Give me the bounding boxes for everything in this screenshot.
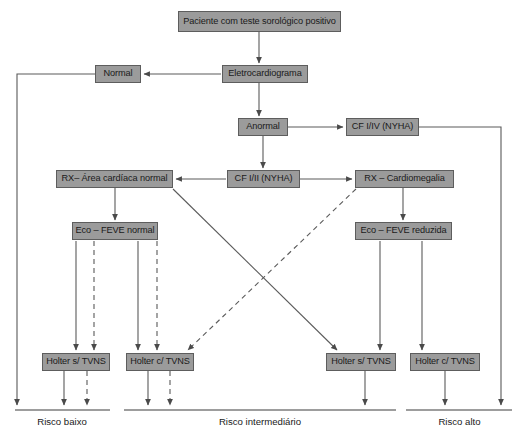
node-rx-area-cardiaca-normal[interactable]: RX– Área cardíaca normal bbox=[56, 170, 173, 188]
node-label: RX– Área cardíaca normal bbox=[62, 174, 168, 183]
edge-rx-cardiomegalia-to-holter-c-baixo bbox=[188, 189, 356, 350]
node-eco-feve-normal[interactable]: Eco – FEVE normal bbox=[72, 222, 158, 240]
node-label: Holter s/ TVNS bbox=[46, 357, 106, 366]
risk-label-risco-alto: Risco alto bbox=[412, 416, 507, 427]
risk-label-risco-baixo: Risco baixo bbox=[12, 416, 112, 427]
node-cf-3-4-nyha[interactable]: CF I/IV (NYHA) bbox=[346, 118, 419, 136]
node-cf-1-2-nyha[interactable]: CF I/II (NYHA) bbox=[227, 170, 300, 188]
node-anormal[interactable]: Anormal bbox=[238, 118, 288, 136]
node-eco-feve-reduzida[interactable]: Eco – FEVE reduzida bbox=[355, 222, 452, 240]
node-holter-sem-tvns-risco-baixo[interactable]: Holter s/ TVNS bbox=[42, 353, 110, 371]
node-label: Holter s/ TVNS bbox=[331, 357, 391, 366]
risk-label-text: Risco baixo bbox=[37, 416, 87, 427]
node-label: Paciente com teste sorológico positivo bbox=[183, 17, 335, 26]
node-label: Holter c/ TVNS bbox=[130, 357, 190, 366]
node-rx-cardiomegalia[interactable]: RX – Cardiomegalia bbox=[355, 170, 454, 188]
node-paciente-teste-sorologico-positivo[interactable]: Paciente com teste sorológico positivo bbox=[178, 11, 341, 32]
node-label: CF I/IV (NYHA) bbox=[352, 122, 413, 131]
node-label: Anormal bbox=[246, 122, 280, 131]
risk-label-risco-intermediario: Risco intermediário bbox=[190, 416, 330, 427]
node-holter-sem-tvns-intermediario-dir[interactable]: Holter s/ TVNS bbox=[326, 353, 396, 371]
node-normal[interactable]: Normal bbox=[95, 65, 141, 83]
risk-label-text: Risco intermediário bbox=[219, 416, 301, 427]
node-label: Eco – FEVE reduzida bbox=[361, 226, 447, 235]
flowchart-diagram: Paciente com teste sorológico positivo N… bbox=[0, 0, 520, 440]
node-label: CF I/II (NYHA) bbox=[235, 174, 293, 183]
node-label: Eco – FEVE normal bbox=[76, 226, 155, 235]
node-label: Holter c/ TVNS bbox=[415, 357, 475, 366]
node-holter-com-tvns-intermediario-esq[interactable]: Holter c/ TVNS bbox=[126, 353, 194, 371]
node-label: Normal bbox=[103, 69, 132, 78]
risk-label-text: Risco alto bbox=[438, 416, 480, 427]
node-eletrocardiograma[interactable]: Eletrocardiograma bbox=[222, 65, 308, 83]
node-label: Eletrocardiograma bbox=[228, 69, 301, 78]
edge-rx-normal-to-holter-s-intermediate bbox=[173, 189, 337, 350]
node-label: RX – Cardiomegalia bbox=[364, 174, 444, 183]
node-holter-com-tvns-risco-alto[interactable]: Holter c/ TVNS bbox=[410, 353, 480, 371]
